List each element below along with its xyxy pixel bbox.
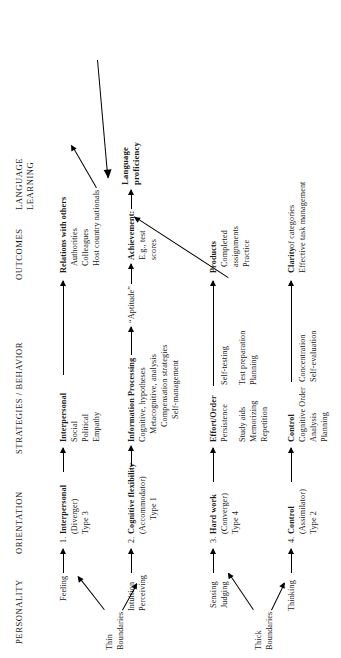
row2-strategies-heading: Information Processing	[127, 358, 137, 442]
row2-arrow-personality-to-orientation	[131, 549, 132, 573]
row2-strategies-item2: Metacognitive, analysis	[149, 354, 159, 434]
row3-arrow-into-strategies	[213, 448, 214, 468]
row2-arrow-strategies-to-aptitude	[131, 327, 132, 355]
column-header-personality: PERSONALITY	[14, 579, 24, 644]
row2-orientation-sub2: Type 1	[149, 497, 159, 520]
row2-personality-perceiving: Perceiving	[138, 575, 148, 611]
row4-strategies-item3: Planning	[320, 412, 330, 442]
row1-orientation-number: 1.	[59, 537, 69, 543]
row1-outcome-item1: Authorities	[70, 228, 80, 266]
thin-boundaries-line2: Boundaries	[116, 612, 126, 650]
row4-orientation-sub1: (Assimilator)	[298, 489, 308, 534]
row4-arrow-personality-to-orientation	[291, 549, 292, 573]
row3-arrow-personality-to-orientation	[213, 549, 214, 573]
rotated-figure-wrapper: PERSONALITY ORIENTATION STRATEGIES / BEH…	[0, 0, 341, 658]
row3-orientation-heading: Hard work	[209, 494, 219, 534]
row1-outcome-heading: Relations with others	[59, 197, 69, 273]
row2-arrow-orientation-to-strategies	[131, 446, 132, 466]
row1-strategies-heading: Interpersonal	[59, 393, 69, 442]
row1-outcome-item2: Colleagues	[81, 229, 91, 266]
row4-strategies-item1: Cognitive Order	[298, 387, 308, 442]
thin-boundaries-line1: Thin	[105, 634, 115, 650]
row4-strategies-item2: Analysis	[309, 413, 319, 442]
row2-orientation-heading: Cognitive flexibility	[127, 463, 137, 534]
row2-strategies-item1: Cognitive, hypotheses	[138, 367, 148, 442]
column-header-orientation: ORIENTATION	[14, 491, 24, 554]
column-header-strategies: STRATEGIES / BEHAVIOR	[14, 342, 24, 454]
row2-arrow-achievement-to-language-proficiency	[131, 190, 132, 209]
column-header-language-learning-line1: LANGUAGE	[14, 158, 24, 210]
row3-outcome-item1: Completed	[220, 230, 230, 267]
diagram-canvas: PERSONALITY ORIENTATION STRATEGIES / BEH…	[0, 0, 341, 658]
row2-arrow-aptitude-to-achievement	[131, 264, 132, 284]
row1-strategies-item2: Political	[81, 414, 91, 442]
row1-orientation-sub1: (Diverger)	[70, 499, 80, 534]
thick-boundaries-line1: Thick	[254, 630, 264, 650]
row3-strategies-heading: Effort/Order	[209, 395, 219, 442]
row3-outcome-heading: Products	[209, 241, 219, 273]
row4-strategies-right-item1: Concentration	[298, 334, 308, 382]
row2-outcome-item1: E.g., test	[138, 230, 148, 260]
row3-orientation-sub2: Type 4	[231, 511, 241, 534]
row4-orientation-sub2: Type 2	[309, 511, 319, 534]
row4-outcome-heading-suffix: of categories	[287, 205, 297, 248]
row2-outcome-item2: scores	[149, 239, 159, 260]
row3-outcome-item2: assignments	[231, 226, 241, 267]
row4-orientation-heading: Control	[287, 506, 297, 534]
row3-strategies-right-item3: Planning	[249, 355, 259, 385]
row1-arrow-personality-to-orientation	[63, 549, 64, 573]
row3-strategies-item2: Study aids	[238, 407, 248, 442]
row3-strategies-item1: Persistence	[220, 404, 230, 442]
row3-personality-judging: Judging	[220, 581, 230, 608]
row4-orientation-number: 4.	[287, 537, 297, 543]
row3-orientation-sub1: (Converger)	[220, 493, 230, 534]
row3-strategies-item4: Repetition	[260, 407, 270, 442]
row1-strategies-item3: Empathy	[92, 412, 102, 442]
row4-outcome-item1: Effective task management	[298, 182, 308, 273]
row4-arrow-strategies-to-outcomes	[291, 281, 292, 382]
row2-orientation-number: 2.	[127, 537, 137, 543]
column-header-outcomes: OUTCOMES	[14, 228, 24, 280]
column-header-language-learning-line2: LEARNING	[25, 162, 35, 210]
row4-personality-thinking: Thinking	[287, 580, 297, 611]
row1-strategies-item1: Social	[70, 421, 80, 442]
row3-strategies-right-item1: Self-testing	[220, 346, 230, 385]
row4-outcome-heading: Clarity	[287, 247, 297, 273]
row1-arrow-strategies-to-outcomes	[63, 281, 64, 375]
row3-personality-sensing: Sensing	[209, 581, 219, 608]
language-proficiency-line1: Language	[120, 147, 130, 185]
row3-strategies-item3: Memorizing	[249, 401, 259, 442]
row2-aptitude-label: “Aptitude”	[127, 286, 137, 323]
row3-arrow-strategies-to-outcomes	[213, 281, 214, 386]
row1-orientation-heading: Interpersonal	[59, 485, 69, 534]
row3-strategies-right-item2: Test preparation	[238, 331, 248, 385]
row2-strategies-item3: Compensation strategies	[160, 344, 170, 427]
language-proficiency-line2: proficiency	[131, 142, 141, 185]
thick-boundaries-line2: Boundaries	[265, 612, 275, 650]
row2-orientation-sub1: (Accommodator)	[138, 476, 148, 534]
row1-personality-feeling: Feeling	[59, 576, 69, 601]
row4-strategies-right-item2: Self-evaluation	[309, 330, 319, 382]
row1-outcome-item3: Host country nationals	[92, 190, 102, 266]
row3-outcome-item3: Practice	[242, 240, 252, 267]
row4-arrow-into-strategies	[291, 448, 292, 468]
row1-arrow-into-strategies	[63, 448, 64, 462]
row3-orientation-number: 3.	[209, 537, 219, 543]
row2-strategies-item4: Self-management	[171, 360, 181, 419]
row4-strategies-heading: Control	[287, 414, 297, 442]
row1-orientation-sub2: Type 3	[81, 511, 91, 534]
